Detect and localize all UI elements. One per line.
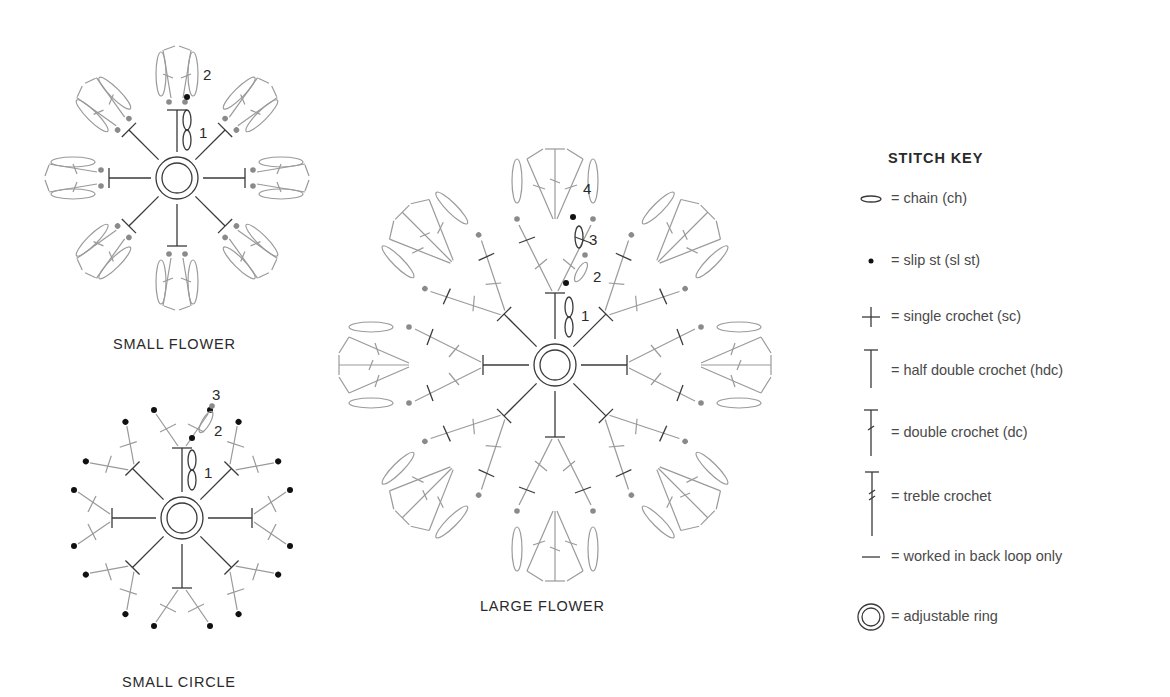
key-label: = half double crochet (hdc) <box>891 362 1063 378</box>
stitch-key-title: STITCH KEY <box>888 150 983 166</box>
key-row-single-crochet: = single crochet (sc) <box>856 302 1156 332</box>
key-label: = worked in back loop only <box>891 548 1062 564</box>
treble-crochet-icon <box>856 482 884 512</box>
small-circle-chart: 1 2 3 <box>0 380 360 697</box>
key-label: = treble crochet <box>891 488 991 504</box>
round-label-2: 2 <box>214 422 222 439</box>
small-flower-chart: 1 2 <box>0 0 360 330</box>
round-label-2: 2 <box>203 66 211 83</box>
large-flower-chart: 1 2 3 4 <box>340 120 780 620</box>
small-flower-diagram: 1 2 SMALL FLOWER <box>0 0 360 330</box>
key-row-adjustable-ring: = adjustable ring <box>856 602 1156 632</box>
round-label-1: 1 <box>581 307 589 324</box>
round-label-3: 3 <box>589 231 597 248</box>
round-label-1: 1 <box>204 464 212 481</box>
round-label-4: 4 <box>583 180 591 197</box>
small-flower-caption: SMALL FLOWER <box>113 336 236 352</box>
key-row-chain: = chain (ch) <box>856 184 1156 214</box>
key-row-slip-stitch: = slip st (sl st) <box>856 246 1156 276</box>
key-row-treble-crochet: = treble crochet <box>856 482 1156 512</box>
back-loop-icon <box>856 542 884 572</box>
single-crochet-icon <box>856 302 884 332</box>
large-flower-caption: LARGE FLOWER <box>480 598 605 614</box>
double-crochet-icon <box>856 418 884 448</box>
key-label: = adjustable ring <box>891 608 998 624</box>
small-circle-caption: SMALL CIRCLE <box>122 674 236 690</box>
key-label: = slip st (sl st) <box>891 252 980 268</box>
key-row-half-double-crochet: = half double crochet (hdc) <box>856 356 1156 386</box>
large-flower-diagram: 1 2 3 4 LARGE FLOWER <box>340 120 780 620</box>
adjustable-ring-icon <box>856 602 884 632</box>
round-label-2: 2 <box>593 268 601 285</box>
key-label: = double crochet (dc) <box>891 424 1028 440</box>
key-row-back-loop: = worked in back loop only <box>856 542 1156 572</box>
key-label: = single crochet (sc) <box>891 308 1021 324</box>
round-label-3: 3 <box>212 386 220 403</box>
key-label: = chain (ch) <box>891 190 967 206</box>
chain-icon <box>856 184 884 214</box>
key-row-double-crochet: = double crochet (dc) <box>856 418 1156 448</box>
round-label-1: 1 <box>199 124 207 141</box>
half-double-crochet-icon <box>856 356 884 386</box>
small-circle-diagram: 1 2 3 SMALL CIRCLE <box>0 380 360 697</box>
slip-stitch-icon <box>856 246 884 276</box>
